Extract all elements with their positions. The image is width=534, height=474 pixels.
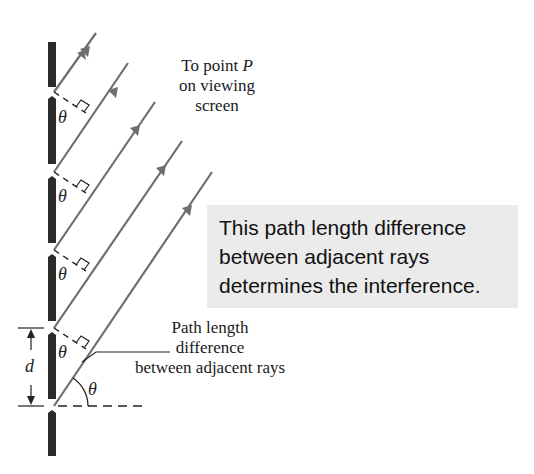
point-p-symbol: P: [242, 56, 252, 75]
diffraction-diagram: θ θ θ θ θ d To point P on viewing screen…: [0, 0, 534, 474]
to-point-line2: on viewing: [160, 76, 274, 96]
theta-label-4: θ: [58, 343, 67, 361]
callout-line2: between adjacent rays: [219, 242, 508, 271]
to-point-text: To point: [181, 56, 242, 75]
theta-arc: [73, 378, 88, 406]
theta-angle-label: θ: [88, 380, 97, 398]
path-length-line1: Path length: [125, 318, 295, 338]
to-point-line3: screen: [160, 96, 274, 116]
path-length-label: Path length difference between adjacent …: [125, 318, 295, 378]
path-length-line3: between adjacent rays: [125, 358, 295, 378]
d-spacing-label: d: [25, 357, 34, 375]
theta-label-2: θ: [58, 187, 67, 205]
interference-callout: This path length difference between adja…: [207, 205, 518, 308]
callout-line1: This path length difference: [219, 213, 508, 242]
ray-3: [54, 102, 155, 250]
to-point-p-label: To point P on viewing screen: [160, 56, 274, 116]
callout-line3: determines the interference.: [219, 271, 508, 300]
path-length-line2: difference: [125, 338, 295, 358]
theta-label-3: θ: [58, 265, 67, 283]
ray-1: [54, 33, 96, 92]
theta-label-1: θ: [58, 108, 67, 126]
